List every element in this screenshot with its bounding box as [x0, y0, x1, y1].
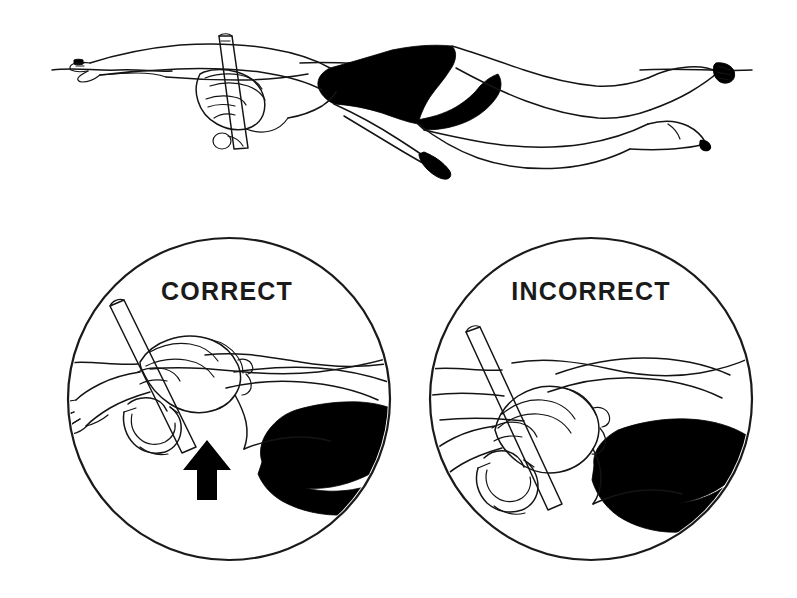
panel-incorrect-caption: INCORRECT	[511, 277, 670, 305]
panel-correct-caption: CORRECT	[161, 277, 293, 305]
illustration-root: CORRECT	[0, 0, 797, 598]
swimming-technique-diagram: CORRECT	[0, 0, 797, 598]
panel-incorrect[interactable]: INCORRECT	[430, 238, 752, 560]
